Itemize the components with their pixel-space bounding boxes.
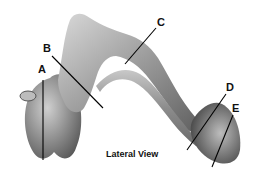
label-b: B [43,43,51,54]
anatomy-diagram: A B C D E Lateral View [0,0,258,178]
label-d: D [226,82,234,93]
label-e: E [232,103,239,114]
label-a: A [38,64,46,75]
left-opening [20,91,36,101]
label-c: C [157,17,165,28]
caption-lateral-view: Lateral View [106,149,158,159]
